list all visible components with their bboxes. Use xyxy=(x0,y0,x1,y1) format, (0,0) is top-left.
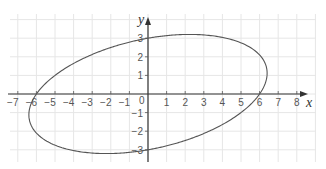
x-tick-label: 5 xyxy=(238,97,244,108)
x-tick-label: 3 xyxy=(201,97,207,108)
x-axis-label: x xyxy=(305,95,313,110)
y-tick-label: −1 xyxy=(132,108,144,119)
x-tick-label: −7 xyxy=(7,97,19,108)
x-tick-label: 1 xyxy=(164,97,170,108)
y-axis-label: y xyxy=(136,12,145,27)
y-tick-label: 1 xyxy=(137,70,143,81)
y-axis-arrow-icon xyxy=(145,17,151,25)
x-tick-label: 4 xyxy=(220,97,226,108)
ellipse-chart: −7−6−5−4−3−2−112345678−3−2−1123 x y 0 xyxy=(0,0,326,169)
x-tick-label: 8 xyxy=(294,97,300,108)
x-tick-label: 2 xyxy=(182,97,188,108)
origin-label: 0 xyxy=(139,95,145,106)
x-tick-label: 6 xyxy=(257,97,263,108)
y-tick-label: 2 xyxy=(137,52,143,63)
x-tick-label: −3 xyxy=(81,97,93,108)
y-tick-label: −2 xyxy=(132,126,144,137)
x-tick-label: −4 xyxy=(63,97,75,108)
x-tick-label: −1 xyxy=(119,97,131,108)
x-tick-label: −5 xyxy=(44,97,56,108)
x-tick-label: 7 xyxy=(275,97,281,108)
x-tick-label: −2 xyxy=(100,97,112,108)
